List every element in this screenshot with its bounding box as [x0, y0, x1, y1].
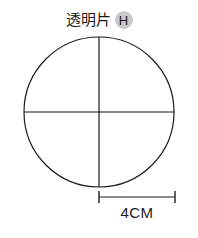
diagram-svg: [0, 0, 198, 238]
dimension-label: 4CM: [99, 205, 175, 221]
figure-page: 透明片 H 4CM: [0, 0, 198, 238]
circle-diagram: 4CM: [0, 0, 198, 238]
